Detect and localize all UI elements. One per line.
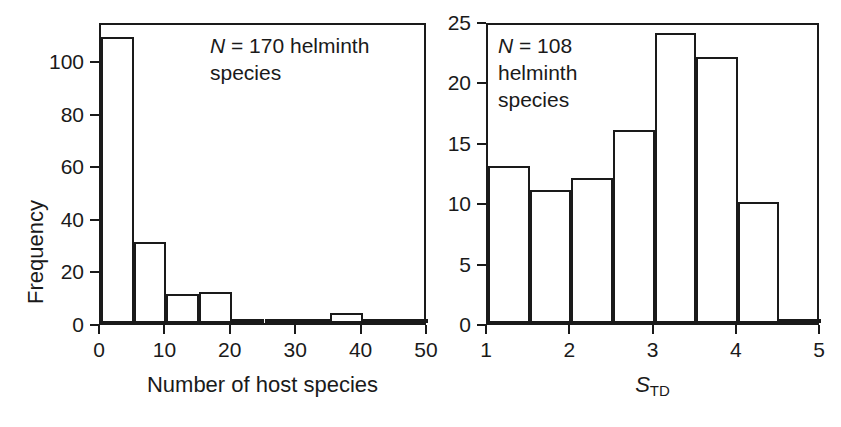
y-axis-tick-label: 100 [24, 51, 84, 72]
histogram-bar [166, 294, 199, 323]
x-axis-tick-label: 3 [623, 339, 683, 360]
histogram-bar [655, 33, 697, 323]
histogram-bar [571, 178, 613, 323]
histogram-bar [199, 292, 232, 324]
histogram-bar [297, 319, 330, 323]
y-axis-tick-label: 5 [411, 254, 471, 275]
histogram-bar [779, 319, 821, 323]
histogram-bar [265, 319, 298, 323]
x-axis-tick-label: 20 [200, 339, 260, 360]
y-axis-tick [90, 219, 99, 221]
y-axis-tick [477, 143, 486, 145]
x-axis-tick-label: 30 [265, 339, 325, 360]
x-axis-tick-label: 1 [456, 339, 516, 360]
y-axis-tick [90, 166, 99, 168]
x-axis-title-right: STD [486, 373, 819, 399]
y-axis-tick-label: 60 [24, 156, 84, 177]
y-axis-tick-label: 15 [411, 133, 471, 154]
annotation-right-count: 108 [537, 34, 572, 57]
histogram-bar [488, 166, 530, 323]
histogram-bar [232, 319, 265, 323]
histogram-bar [613, 130, 655, 323]
x-axis-tick-label: 4 [706, 339, 766, 360]
y-axis-tick-label: 25 [411, 12, 471, 33]
y-axis-tick-label: 0 [411, 314, 471, 335]
x-axis-title-right-subscript: TD [650, 382, 670, 399]
figure-container: 020406080100 01020304050 N = 170 helmint… [0, 0, 841, 427]
y-axis-tick [477, 22, 486, 24]
y-axis-tick [477, 264, 486, 266]
y-axis-tick-label: 80 [24, 104, 84, 125]
x-axis-tick [163, 325, 165, 334]
x-axis-tick [294, 325, 296, 334]
x-axis-tick [229, 325, 231, 334]
x-axis-tick-label: 5 [789, 339, 841, 360]
x-axis-tick-label: 2 [539, 339, 599, 360]
annotation-left-unit: helminth species [210, 34, 369, 84]
histogram-bar [696, 57, 738, 323]
annotation-left: N = 170 helminth species [210, 32, 440, 86]
histogram-bar [530, 190, 572, 323]
annotation-right-unit-line1: helminth [498, 61, 577, 84]
x-axis-title-left: Number of host species [99, 373, 426, 397]
histogram-bar [363, 319, 396, 323]
y-axis-title-left: Frequency [24, 200, 48, 304]
annotation-right: N = 108helminthspecies [498, 32, 577, 113]
x-axis-title-right-base: S [635, 372, 650, 397]
x-axis-tick [735, 325, 737, 334]
x-axis-tick-label: 0 [69, 339, 129, 360]
y-axis-tick-label: 10 [411, 193, 471, 214]
x-axis-tick [360, 325, 362, 334]
x-axis-tick [568, 325, 570, 334]
histogram-bar [738, 202, 780, 323]
x-axis-tick [652, 325, 654, 334]
annotation-left-symbol: N [210, 34, 225, 57]
chart-panel-right: 0510152025 12345 N = 108helminthspecies … [440, 0, 841, 427]
y-axis-tick [90, 271, 99, 273]
chart-panel-left: 020406080100 01020304050 N = 170 helmint… [0, 0, 440, 427]
y-axis-tick-label: 20 [411, 72, 471, 93]
annotation-right-unit-line2: species [498, 88, 569, 111]
x-axis-tick [818, 325, 820, 334]
x-axis-tick-label: 40 [331, 339, 391, 360]
histogram-bar [134, 242, 167, 323]
x-axis-tick-label: 10 [134, 339, 194, 360]
y-axis-tick [90, 114, 99, 116]
y-axis-tick-label: 0 [24, 314, 84, 335]
annotation-right-symbol: N [498, 34, 513, 57]
y-axis-tick [477, 203, 486, 205]
y-axis-tick [477, 82, 486, 84]
x-axis-tick [98, 325, 100, 334]
histogram-bar [101, 37, 134, 323]
x-axis-tick [485, 325, 487, 334]
histogram-bar [330, 313, 363, 324]
y-axis-tick [90, 61, 99, 63]
annotation-left-text: 170 [249, 34, 284, 57]
